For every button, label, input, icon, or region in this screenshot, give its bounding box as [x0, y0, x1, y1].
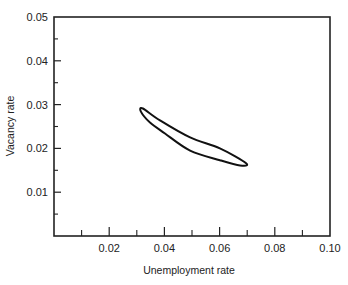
y-axis-tick-labels: 0.010.020.030.040.05	[27, 11, 48, 198]
x-axis-tick-labels: 0.020.040.060.080.10	[98, 242, 340, 254]
x-tick-label: 0.02	[98, 242, 119, 254]
plot-border	[54, 17, 330, 236]
y-tick-label: 0.02	[27, 142, 48, 154]
x-tick-label: 0.04	[154, 242, 175, 254]
x-axis-label: Unemployment rate	[143, 264, 235, 276]
x-tick-label: 0.10	[319, 242, 340, 254]
y-axis-label: Vacancy rate	[4, 96, 16, 157]
chart: 0.020.040.060.080.10 0.010.020.030.040.0…	[0, 0, 348, 285]
x-tick-label: 0.08	[264, 242, 285, 254]
y-axis-ticks	[54, 39, 61, 214]
y-tick-label: 0.04	[27, 55, 48, 67]
data-series-loop	[140, 108, 247, 166]
x-tick-label: 0.06	[209, 242, 230, 254]
y-tick-label: 0.03	[27, 99, 48, 111]
plot-frame	[54, 17, 330, 236]
y-tick-label: 0.01	[27, 186, 48, 198]
x-axis-ticks	[82, 227, 303, 236]
y-tick-label: 0.05	[27, 11, 48, 23]
